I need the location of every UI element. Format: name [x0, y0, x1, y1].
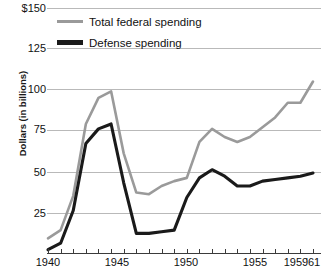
x-tick-label: 1940	[28, 256, 68, 268]
x-tickmark	[199, 249, 200, 253]
x-tickmark	[61, 249, 62, 253]
x-tickmark	[288, 249, 289, 253]
x-tickmark	[263, 249, 264, 253]
x-tickmark	[73, 249, 74, 253]
x-tickmark	[237, 249, 238, 254]
plot-area	[0, 0, 321, 270]
x-tickmark	[149, 249, 150, 253]
x-tickmark	[225, 249, 226, 253]
x-tickmark	[162, 249, 163, 253]
chart-container: Dollars (in billions) $150 125 100 75 50…	[0, 0, 321, 270]
x-tickmark	[124, 249, 125, 253]
x-tickmark	[212, 249, 213, 253]
x-tickmark	[250, 249, 251, 253]
x-tick-label: 1955	[235, 256, 275, 268]
x-tickmark	[86, 249, 87, 253]
x-tickmark	[313, 249, 314, 253]
x-tick-label: '61	[303, 256, 321, 268]
series-line-defense-spending	[48, 124, 313, 250]
x-tickmark	[136, 249, 137, 253]
x-tick-label: 1950	[166, 256, 206, 268]
x-tickmark	[48, 249, 49, 254]
x-tickmark	[187, 249, 188, 253]
x-tickmark	[275, 249, 276, 253]
x-axis-line	[47, 253, 321, 254]
x-tickmark	[174, 249, 175, 254]
x-tick-label: 1945	[97, 256, 137, 268]
x-tickmark	[98, 249, 99, 253]
x-tickmark	[111, 249, 112, 254]
x-tickmark	[300, 249, 301, 254]
